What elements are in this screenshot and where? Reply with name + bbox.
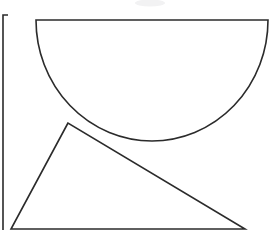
semicircle-shape: [36, 20, 268, 141]
left-frame-bracket: [3, 15, 8, 230]
top-smudge: [135, 0, 165, 7]
figure-svg: [0, 0, 276, 242]
drawing-canvas: [0, 0, 276, 242]
